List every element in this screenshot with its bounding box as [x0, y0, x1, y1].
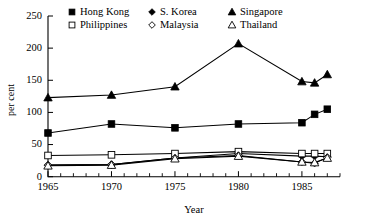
legend-label: Philippines — [80, 19, 127, 30]
series-line — [48, 44, 327, 98]
legend-item-s-korea: S. Korea — [149, 6, 197, 17]
legend-label: Malaysia — [160, 19, 199, 30]
y-axis-title: per cent — [5, 84, 16, 116]
marker-filled-square — [108, 121, 115, 128]
marker-open-square — [45, 152, 52, 159]
series-hong-kong — [45, 106, 331, 136]
x-axis-tick-label: 1965 — [38, 181, 59, 192]
marker-filled-square — [172, 125, 179, 132]
x-axis-tick-label: 1970 — [101, 181, 122, 192]
marker-open-diamond — [149, 22, 156, 29]
y-axis-tick-label: 100 — [26, 106, 42, 117]
chart-canvas: 05010015020025019651970197519801985 Hong… — [0, 0, 379, 224]
series-singapore — [44, 39, 332, 100]
legend-item-hong-kong: Hong Kong — [69, 6, 130, 17]
marker-filled-square — [311, 111, 318, 118]
y-axis-tick-label: 50 — [32, 138, 43, 149]
marker-filled-triangle — [171, 83, 179, 91]
series-layer — [44, 39, 332, 169]
line-chart: 05010015020025019651970197519801985 Hong… — [0, 0, 379, 224]
series-thailand — [44, 152, 332, 169]
marker-filled-diamond — [149, 9, 156, 16]
y-axis-tick-label: 250 — [26, 10, 42, 21]
marker-filled-square — [324, 106, 331, 113]
marker-filled-square — [45, 130, 52, 137]
marker-filled-square — [299, 119, 306, 126]
series-line — [48, 109, 327, 133]
marker-open-square — [69, 22, 75, 28]
marker-filled-triangle — [323, 70, 331, 78]
y-axis-tick-label: 200 — [26, 42, 42, 53]
legend-label: Hong Kong — [80, 6, 130, 17]
marker-open-triangle — [228, 21, 236, 28]
series-line — [48, 152, 327, 156]
marker-open-square — [108, 152, 115, 159]
legend-label: S. Korea — [160, 6, 197, 17]
legend-item-singapore: Singapore — [228, 6, 283, 17]
marker-filled-triangle — [298, 77, 306, 85]
marker-open-square — [311, 150, 318, 157]
legend-item-thailand: Thailand — [228, 19, 278, 30]
marker-filled-triangle — [234, 39, 242, 47]
legend-label: Thailand — [240, 19, 278, 30]
marker-filled-square — [69, 9, 75, 15]
legend-item-malaysia: Malaysia — [149, 19, 199, 30]
marker-open-square — [299, 150, 306, 157]
x-axis-tick-label: 1975 — [164, 181, 185, 192]
marker-filled-square — [235, 121, 242, 128]
x-axis-tick-label: 1985 — [291, 181, 312, 192]
x-axis-title: Year — [184, 204, 204, 215]
legend-layer: Hong KongS. KoreaSingaporePhilippinesMal… — [69, 6, 283, 30]
legend-item-philippines: Philippines — [69, 19, 127, 30]
y-axis-tick-label: 150 — [26, 74, 42, 85]
x-axis-tick-label: 1980 — [228, 181, 249, 192]
marker-filled-triangle — [228, 8, 236, 15]
legend-label: Singapore — [240, 6, 283, 17]
